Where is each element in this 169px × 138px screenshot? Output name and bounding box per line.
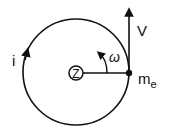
electron-label: me <box>138 70 157 90</box>
nucleus-label: Z <box>72 67 79 81</box>
electron-label-subscript: e <box>151 78 157 90</box>
angular-velocity-arrow-icon <box>100 54 107 73</box>
velocity-label: V <box>137 22 147 39</box>
angular-velocity-label: ω <box>109 49 120 65</box>
electron-label-main: m <box>138 70 151 87</box>
bohr-orbit-diagram: Z i ω V me <box>0 0 169 138</box>
current-label: i <box>12 52 15 69</box>
current-arrow-icon <box>25 52 27 60</box>
